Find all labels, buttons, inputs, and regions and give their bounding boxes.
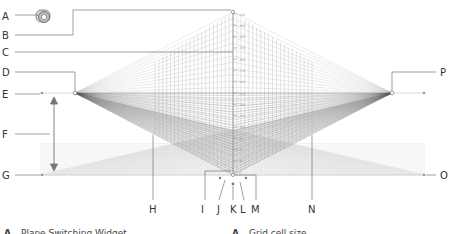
legend-text: Grid cell size: [249, 228, 307, 234]
ruler-tick-label: 90: [239, 137, 243, 141]
callout-label-m: M: [251, 205, 260, 215]
legend-text: Plane Switching Widget: [21, 228, 127, 234]
ruler-tick-label: 210: [239, 92, 245, 96]
callout-label-b: B: [2, 31, 9, 41]
ruler-tick-label: 270: [239, 69, 245, 73]
ruler-tick-label: 300: [239, 58, 245, 62]
ruler-tick-label: 330: [239, 46, 245, 50]
ruler-tick-label: 240: [239, 80, 245, 84]
left-grid-extent-handle[interactable]: [219, 177, 221, 179]
right-vanishing-point-handle[interactable]: [390, 91, 394, 95]
ground-left-handle[interactable]: [41, 174, 44, 177]
vertical-extent-handle[interactable]: [231, 10, 234, 13]
ruler-tick-label: 60: [239, 148, 243, 152]
callout-label-h: H: [149, 205, 157, 215]
ruler-tick-label: 420: [239, 13, 245, 17]
callout-label-n: N: [308, 205, 315, 215]
ruler-tick-label: 120: [239, 125, 245, 129]
callout-label-p: P: [440, 68, 446, 78]
legend-item-grid-cell-size: AGrid cell size: [232, 228, 307, 234]
callout-label-d: D: [2, 68, 10, 78]
ruler-tick-label: 180: [239, 103, 245, 107]
ruler-tick-label: 150: [239, 114, 245, 118]
callout-label-c: C: [2, 48, 9, 58]
ruler-tick-label: 30: [239, 159, 243, 163]
legend-key: A: [232, 228, 239, 234]
grid-cell-size-handle[interactable]: [232, 183, 235, 186]
callout-label-k: K: [230, 205, 237, 215]
ground-right-handle[interactable]: [423, 174, 426, 177]
callout-label-e: E: [2, 90, 8, 100]
ruler-tick-label: 390: [239, 24, 245, 28]
ruler-tick-label: 0: [239, 171, 241, 175]
horizon-height-arrow: [51, 97, 58, 171]
callout-label-l: L: [240, 205, 246, 215]
legend-item-plane-switching-widget: APlane Switching Widget: [4, 228, 127, 234]
callout-label-a: A: [2, 12, 9, 22]
horizon-right-handle[interactable]: [423, 92, 426, 95]
callout-label-j: J: [217, 205, 220, 215]
perspective-grid-diagram: 4203903603303002702402101801501209060300: [0, 0, 451, 234]
ruler-tick-label: 360: [239, 35, 245, 39]
right-grid-extent-handle[interactable]: [245, 177, 247, 179]
horizon-left-handle[interactable]: [41, 92, 44, 95]
callout-label-i: I: [201, 205, 204, 215]
callout-label-o: O: [440, 171, 448, 181]
origin-handle[interactable]: [231, 173, 234, 176]
plane-switching-widget[interactable]: [36, 10, 50, 23]
callout-label-f: F: [2, 130, 8, 140]
callout-label-g: G: [2, 171, 10, 181]
legend-key: A: [4, 228, 11, 234]
plane-switching-icon: [41, 14, 46, 19]
left-vanishing-point-handle[interactable]: [73, 91, 77, 95]
